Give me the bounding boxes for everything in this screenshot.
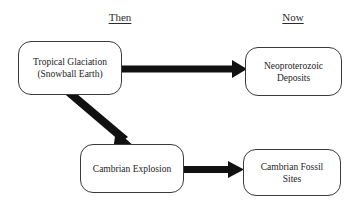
node-neoproterozoic-deposits-label: Neoproterozoic Deposits: [264, 60, 323, 84]
node-tropical-glaciation[interactable]: Tropical Glaciation (Snowball Earth): [18, 41, 122, 95]
node-cambrian-fossil-sites-label: Cambrian Fossil Sites: [261, 161, 324, 185]
node-cambrian-fossil-sites[interactable]: Cambrian Fossil Sites: [243, 149, 341, 196]
arrow-cambrian-to-fossils: [183, 161, 244, 178]
diagram-canvas: Then Now Tropical Glaciation (Snowball E…: [0, 0, 359, 207]
arrow-glaciation-to-deposits: [121, 60, 247, 78]
node-tropical-glaciation-label: Tropical Glaciation (Snowball Earth): [33, 56, 107, 80]
node-neoproterozoic-deposits[interactable]: Neoproterozoic Deposits: [245, 47, 342, 96]
node-cambrian-explosion[interactable]: Cambrian Explosion: [80, 144, 184, 193]
arrow-glaciation-to-cambrian: [60, 86, 136, 151]
node-cambrian-explosion-label: Cambrian Explosion: [93, 163, 171, 175]
